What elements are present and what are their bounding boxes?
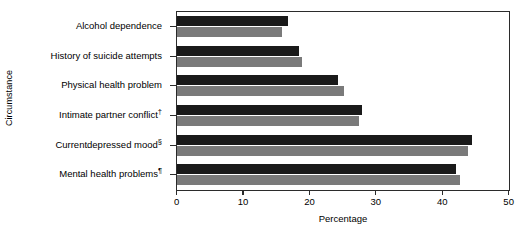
x-axis-tick-mark (375, 190, 376, 195)
x-axis-tick-mark (309, 190, 310, 195)
x-axis-tick-label: 0 (174, 196, 179, 207)
x-axis-tick-label: 40 (437, 196, 448, 207)
bar-2004 (177, 16, 288, 26)
x-axis-tick-label: 10 (238, 196, 249, 207)
bar-chart-figure: Circumstance Alcohol dependenceHistory o… (0, 0, 531, 239)
x-axis-tick-label: 20 (304, 196, 315, 207)
bar-group (177, 71, 509, 101)
y-axis-tick-label: Currentdepressed mood§ (55, 138, 162, 152)
y-axis-tick-label: History of suicide attempts (51, 49, 162, 63)
x-axis-tick-label: 50 (503, 196, 514, 207)
bar-2003 (177, 146, 468, 156)
x-axis-tick-label: 30 (371, 196, 382, 207)
bar-2004 (177, 105, 362, 115)
bar-group (177, 12, 509, 42)
bar-group (177, 160, 509, 190)
bar-2004 (177, 46, 299, 56)
bar-group (177, 101, 509, 131)
bar-group (177, 131, 509, 161)
x-axis-tick-mark (176, 190, 177, 195)
bar-2003 (177, 175, 460, 185)
plot-area: 20042003 (176, 11, 510, 191)
bar-2004 (177, 164, 456, 174)
bar-2004 (177, 75, 338, 85)
bar-2003 (177, 86, 344, 96)
y-axis-tick-labels: Alcohol dependenceHistory of suicide att… (16, 11, 168, 189)
x-axis-tick-mark (508, 190, 509, 195)
y-axis-title: Circumstance (2, 0, 16, 196)
y-axis-tick-label: Physical health problem (61, 78, 162, 92)
bar-group (177, 42, 509, 72)
bar-2003 (177, 57, 302, 67)
bar-2004 (177, 135, 472, 145)
x-axis-tick-mark (442, 190, 443, 195)
x-axis-tick-mark (242, 190, 243, 195)
y-axis-title-text: Circumstance (4, 70, 14, 126)
y-axis-tick-label: Intimate partner conflict† (59, 108, 162, 122)
y-axis-tick-label: Mental health problems¶ (59, 167, 162, 181)
bar-2003 (177, 27, 282, 37)
y-axis-tick-label: Alcohol dependence (76, 19, 162, 33)
x-axis-tick-labels: 01020304050 (176, 190, 510, 214)
bar-2003 (177, 116, 359, 126)
x-axis-title: Percentage (176, 213, 510, 224)
